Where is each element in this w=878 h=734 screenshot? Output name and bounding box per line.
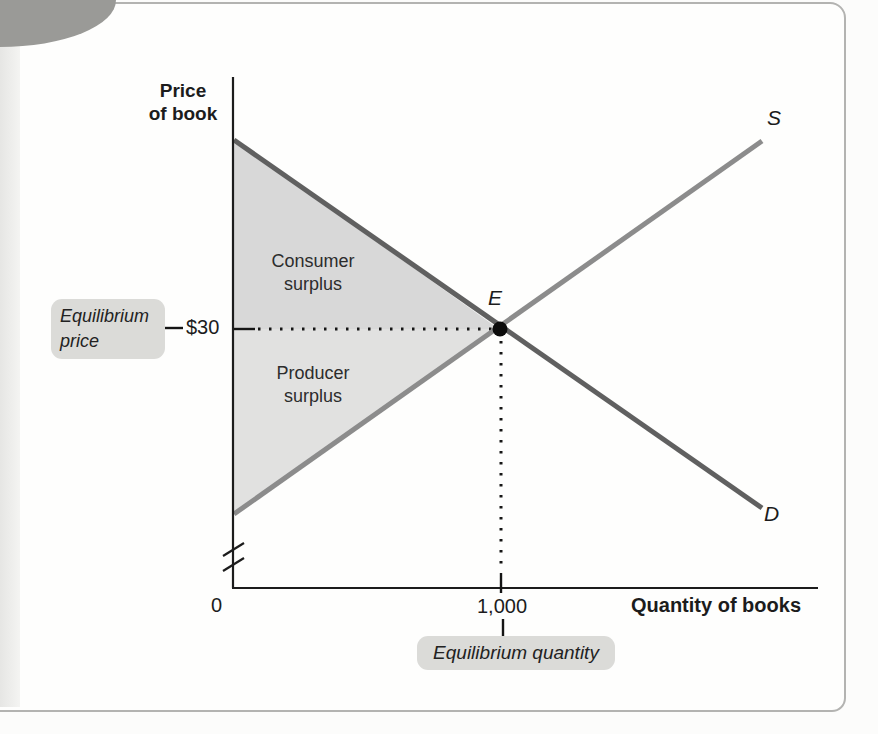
equilibrium-point-label: E xyxy=(488,286,502,310)
equilibrium-quantity-callout: Equilibrium quantity xyxy=(417,636,615,670)
x-axis-title: Quantity of books xyxy=(631,594,801,617)
y-axis-title: Price of book xyxy=(127,79,239,125)
figure-page: Price of book Equilibrium price $30 Cons… xyxy=(0,0,878,734)
producer-surplus-label: Producer surplus xyxy=(253,362,373,408)
demand-curve-label: D xyxy=(764,502,779,526)
origin-tick-label: 0 xyxy=(211,594,222,617)
consumer-surplus-label: Consumer surplus xyxy=(253,250,373,296)
equilibrium-price-callout-line1: Equilibrium xyxy=(60,304,165,329)
producer-surplus-label-line1: Producer xyxy=(253,362,373,385)
equilibrium-price-callout: Equilibrium price xyxy=(51,299,165,359)
quantity-tick-label: 1,000 xyxy=(474,595,530,618)
consumer-surplus-label-line1: Consumer xyxy=(253,250,373,273)
y-axis-title-line2: of book xyxy=(127,102,239,125)
supply-curve-label: S xyxy=(767,106,781,130)
producer-surplus-label-line2: surplus xyxy=(253,385,373,408)
price-tick-label: $30 xyxy=(186,316,219,339)
equilibrium-price-callout-line2: price xyxy=(60,329,165,354)
consumer-surplus-label-line2: surplus xyxy=(253,273,373,296)
y-axis-title-line1: Price xyxy=(127,79,239,102)
equilibrium-point xyxy=(493,322,508,337)
